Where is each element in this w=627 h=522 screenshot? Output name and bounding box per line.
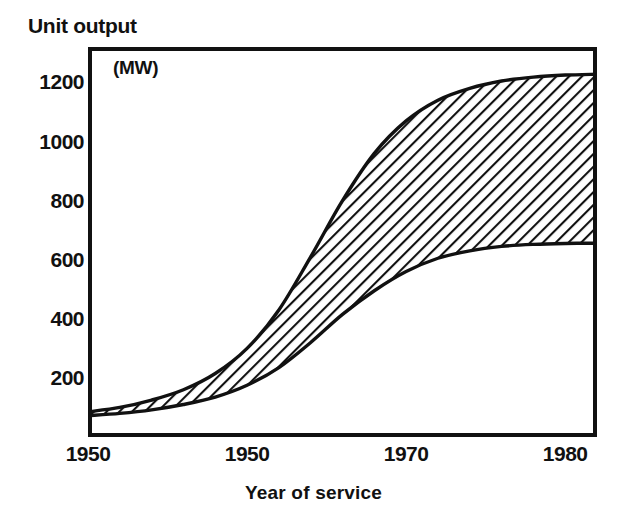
chart-figure: Unit output (MW) 20040060080010001200 19…: [0, 0, 627, 522]
y-tick-label: 600: [0, 248, 84, 272]
x-axis-title: Year of service: [0, 482, 627, 504]
y-tick-label: 200: [0, 366, 84, 390]
x-tick-label: 1980: [543, 442, 588, 466]
area-band-plot: [88, 47, 597, 437]
y-tick-label: 1000: [0, 130, 84, 154]
y-tick-label: 400: [0, 307, 84, 331]
y-tick-label: 1200: [0, 70, 84, 94]
x-tick-label: 1950: [225, 442, 270, 466]
x-tick-label: 1950: [66, 442, 111, 466]
plot-area: [88, 47, 597, 437]
x-tick-label: 1970: [384, 442, 429, 466]
y-tick-label: 800: [0, 189, 84, 213]
